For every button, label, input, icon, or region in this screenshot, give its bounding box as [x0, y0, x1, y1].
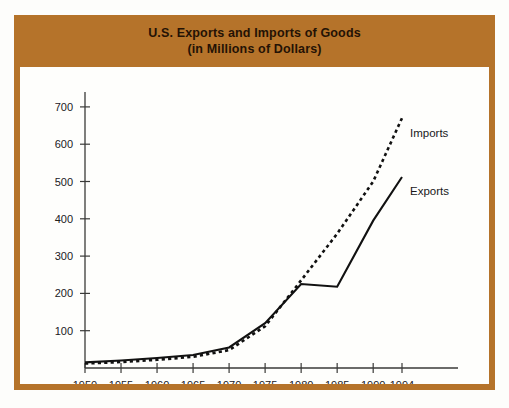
y-tick-label: 300: [55, 250, 73, 262]
chart-title-line-1: U.S. Exports and Imports of Goods: [148, 25, 361, 41]
chart-frame: U.S. Exports and Imports of Goods (in Mi…: [14, 15, 495, 390]
x-tick-label: 1955: [109, 379, 133, 384]
y-tick-label: 700: [55, 101, 73, 113]
x-tick-label: 1980: [289, 379, 313, 384]
chart-figure: U.S. Exports and Imports of Goods (in Mi…: [0, 0, 509, 408]
series-line-imports: [85, 118, 402, 363]
series-line-exports: [85, 177, 402, 362]
x-tick-label: 1950: [73, 379, 97, 384]
y-tick-label: 500: [55, 176, 73, 188]
series-label-imports: Imports: [410, 127, 449, 139]
x-axis-tick-group: 1950195519601965197019751980198519901994: [73, 363, 414, 384]
chart-title-band: U.S. Exports and Imports of Goods (in Mi…: [14, 15, 495, 67]
x-tick-label: 1970: [217, 379, 241, 384]
chart-title-line-2: (in Millions of Dollars): [187, 41, 321, 57]
line-chart-svg: 100200300400500600700 195019551960196519…: [20, 67, 489, 384]
x-tick-label: 1985: [325, 379, 349, 384]
y-tick-label: 100: [55, 325, 73, 337]
y-tick-label: 200: [55, 287, 73, 299]
y-tick-label: 600: [55, 138, 73, 150]
chart-plot-panel: 100200300400500600700 195019551960196519…: [20, 67, 489, 384]
x-tick-label: 1994: [390, 379, 414, 384]
y-tick-label: 400: [55, 213, 73, 225]
x-tick-label: 1965: [181, 379, 205, 384]
x-tick-label: 1960: [145, 379, 169, 384]
x-tick-label: 1990: [361, 379, 385, 384]
series-label-exports: Exports: [410, 185, 449, 197]
x-tick-label: 1975: [253, 379, 277, 384]
